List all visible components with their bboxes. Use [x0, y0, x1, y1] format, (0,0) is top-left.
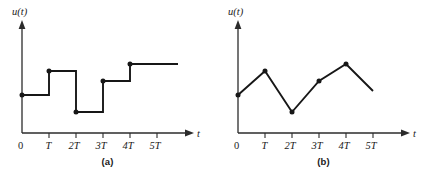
sample-dot [236, 93, 241, 98]
x-axis-arrow-icon [185, 130, 194, 137]
sample-dot [128, 62, 133, 67]
panel-a-trace-group [20, 62, 179, 115]
x-tick-label-5T: 5T [150, 140, 162, 151]
x-tick-label-T: T [46, 140, 53, 151]
y-axis-label: u(t) [228, 6, 244, 18]
panel-b-caption: (b) [216, 156, 431, 167]
staircase-trace [22, 64, 178, 112]
sample-dot [344, 62, 349, 67]
panel-a-labels: u(t) t 0 T 2T 3T 4T 5T [12, 6, 201, 151]
sample-dot [74, 110, 79, 115]
sample-dot [290, 110, 295, 115]
x-tick-label-2T: 2T [285, 140, 297, 151]
x-axis-arrow-icon [401, 130, 410, 137]
sample-dot [263, 69, 268, 74]
x-tick-label-0: 0 [234, 140, 239, 151]
x-tick-label-5T: 5T [366, 140, 378, 151]
x-tick-label-4T: 4T [123, 140, 135, 151]
panel-b-plot: u(t) t 0 T 2T 3T 4T 5T [216, 0, 431, 182]
y-axis-label: u(t) [12, 6, 28, 18]
sample-dot [101, 79, 106, 84]
piecewise-linear-trace [238, 64, 373, 112]
panel-b-ticks [265, 133, 373, 138]
panel-a-caption: (a) [0, 156, 215, 167]
sample-dot [317, 79, 322, 84]
x-tick-label-3T: 3T [95, 140, 108, 151]
figure-container: u(t) t 0 T 2T 3T 4T 5T (a) [0, 0, 431, 182]
panel-a-ticks [49, 133, 157, 138]
y-axis-arrow-icon [235, 20, 242, 29]
x-tick-label-2T: 2T [69, 140, 81, 151]
x-tick-label-4T: 4T [339, 140, 351, 151]
panel-a-axes [19, 20, 194, 136]
panel-b: u(t) t 0 T 2T 3T 4T 5T (b) [216, 0, 431, 182]
sample-dot [20, 93, 25, 98]
panel-a-plot: u(t) t 0 T 2T 3T 4T 5T [0, 0, 215, 182]
x-axis-label: t [197, 128, 201, 139]
x-axis-label: t [413, 128, 417, 139]
sample-dot [47, 69, 52, 74]
y-axis-arrow-icon [19, 20, 26, 29]
x-tick-label-0: 0 [18, 140, 23, 151]
x-tick-label-T: T [262, 140, 269, 151]
x-tick-label-3T: 3T [311, 140, 324, 151]
panel-b-trace-group [236, 62, 374, 115]
panel-a: u(t) t 0 T 2T 3T 4T 5T (a) [0, 0, 215, 182]
